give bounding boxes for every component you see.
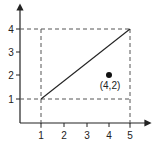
y-tick-2: 2	[8, 70, 14, 81]
x-tick-5: 5	[127, 130, 133, 141]
dashed-box	[20, 29, 130, 128]
y-tick-3: 3	[8, 47, 14, 58]
y-tick-1: 1	[8, 94, 14, 105]
x-tick-2: 2	[61, 130, 67, 141]
x-tick-4: 4	[106, 130, 112, 141]
y-tick-4: 4	[8, 24, 14, 35]
point-marker	[106, 72, 112, 78]
ticks	[16, 29, 130, 127]
x-tick-1: 1	[38, 130, 44, 141]
diagram: 1 2 3 4 5 4 3 2 1 (4,2)	[0, 0, 154, 150]
point-label: (4,2)	[100, 80, 121, 91]
x-tick-3: 3	[84, 130, 90, 141]
